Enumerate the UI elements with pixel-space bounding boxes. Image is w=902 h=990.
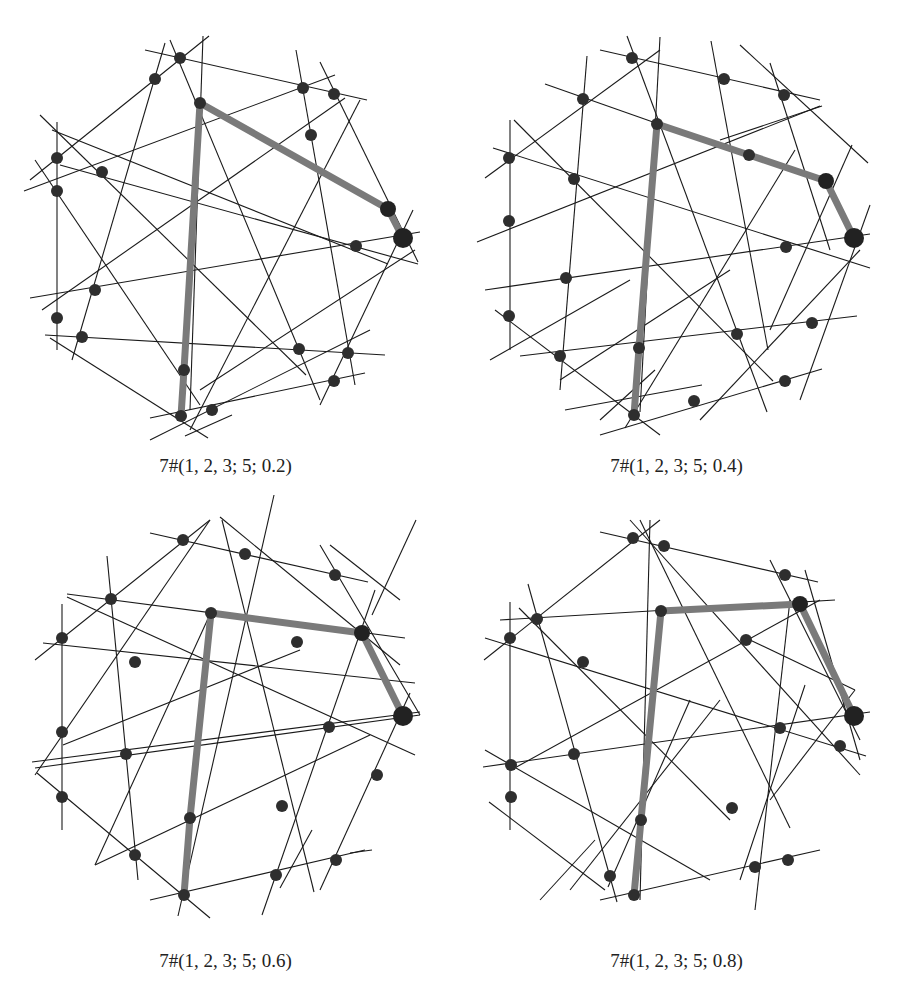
graph-node bbox=[51, 185, 63, 197]
graph-node bbox=[531, 613, 543, 625]
graph-node bbox=[393, 228, 413, 248]
graph-node bbox=[844, 706, 864, 726]
highlighted-path bbox=[634, 124, 854, 415]
graph-node bbox=[626, 52, 638, 64]
graph-node bbox=[604, 870, 616, 882]
arrangement-line bbox=[740, 45, 868, 163]
graph-node bbox=[779, 569, 791, 581]
highlighted-path bbox=[184, 613, 403, 895]
arrangement-line bbox=[372, 520, 416, 615]
graph-node bbox=[51, 312, 63, 324]
graph-node bbox=[568, 173, 580, 185]
graph-node bbox=[305, 129, 317, 141]
graph-node bbox=[380, 201, 396, 217]
graph-node bbox=[149, 73, 161, 85]
graph-node bbox=[120, 748, 132, 760]
arrangement-line bbox=[72, 43, 165, 360]
graph-node bbox=[350, 240, 362, 252]
graph-node bbox=[56, 791, 68, 803]
graph-node bbox=[354, 625, 370, 641]
graph-node bbox=[834, 740, 846, 752]
arrangement-line bbox=[700, 250, 860, 420]
graph-node bbox=[328, 88, 340, 100]
arrangement-line bbox=[740, 685, 805, 880]
graph-node bbox=[371, 769, 383, 781]
graph-node bbox=[291, 636, 303, 648]
graph-node bbox=[779, 375, 791, 387]
arrangement-line bbox=[720, 106, 822, 140]
graph-node bbox=[577, 93, 589, 105]
graph-node bbox=[633, 342, 645, 354]
graph-panel-2 bbox=[32, 495, 420, 918]
arrangement-line bbox=[485, 638, 866, 756]
graph-node bbox=[330, 854, 342, 866]
graph-node bbox=[76, 331, 88, 343]
graph-node bbox=[844, 228, 864, 248]
arrangement-line bbox=[489, 802, 605, 890]
graph-node bbox=[726, 802, 738, 814]
arrangement-line bbox=[220, 517, 400, 665]
graph-node bbox=[184, 812, 196, 824]
graph-node bbox=[393, 706, 413, 726]
graph-node bbox=[328, 375, 340, 387]
arrangement-line bbox=[528, 584, 617, 902]
graph-node bbox=[503, 152, 515, 164]
graph-node bbox=[718, 73, 730, 85]
arrangement-line bbox=[95, 610, 212, 865]
graph-node bbox=[731, 328, 743, 340]
graph-node bbox=[782, 854, 794, 866]
graph-node bbox=[270, 869, 282, 881]
highlighted-path bbox=[634, 604, 854, 895]
arrangement-line bbox=[485, 750, 710, 880]
arrangement-line bbox=[60, 165, 418, 264]
arrangement-line bbox=[30, 232, 420, 298]
graph-node bbox=[329, 569, 341, 581]
graph-node bbox=[205, 607, 217, 619]
graph-node bbox=[89, 284, 101, 296]
graph-node bbox=[342, 347, 354, 359]
graph-node bbox=[293, 343, 305, 355]
graph-node bbox=[818, 173, 834, 189]
graph-node bbox=[780, 241, 792, 253]
arrangement-line bbox=[222, 520, 314, 892]
graph-node bbox=[577, 656, 589, 668]
graph-node bbox=[740, 634, 752, 646]
arrangement-line bbox=[43, 643, 415, 683]
graph-node bbox=[239, 548, 251, 560]
arrangement-line bbox=[296, 50, 355, 385]
graph-node bbox=[628, 889, 640, 901]
graph-node bbox=[96, 166, 108, 178]
arrangement-line bbox=[24, 75, 335, 191]
line-arrangement-graphs bbox=[0, 0, 902, 990]
arrangement-line bbox=[35, 715, 420, 768]
graph-panel-0 bbox=[24, 36, 420, 440]
graph-node bbox=[129, 849, 141, 861]
graph-node bbox=[297, 82, 309, 94]
graph-node bbox=[206, 404, 218, 416]
arrangement-line bbox=[45, 335, 385, 355]
arrangement-line bbox=[178, 495, 274, 916]
arrangement-line bbox=[52, 130, 388, 264]
graph-node bbox=[105, 593, 117, 605]
graph-node bbox=[806, 317, 818, 329]
arrangement-line bbox=[560, 56, 587, 390]
graph-node bbox=[178, 364, 190, 376]
graph-node bbox=[503, 215, 515, 227]
graph-node bbox=[51, 152, 63, 164]
graph-node bbox=[505, 759, 517, 771]
graph-node bbox=[504, 632, 516, 644]
graph-node bbox=[560, 272, 572, 284]
graph-node bbox=[655, 605, 667, 617]
graph-node bbox=[175, 410, 187, 422]
graph-node bbox=[651, 118, 663, 130]
arrangement-line bbox=[485, 234, 870, 290]
arrangement-line bbox=[493, 148, 870, 268]
graph-node bbox=[778, 89, 790, 101]
graph-node bbox=[194, 97, 206, 109]
graph-panel-1 bbox=[477, 36, 870, 435]
graph-panel-3 bbox=[483, 520, 870, 910]
graph-node bbox=[688, 395, 700, 407]
graph-node bbox=[503, 310, 515, 322]
graph-node bbox=[743, 149, 755, 161]
graph-node bbox=[276, 800, 288, 812]
